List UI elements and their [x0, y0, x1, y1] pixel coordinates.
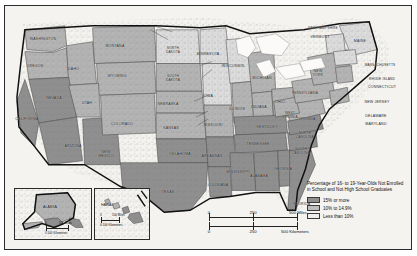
legend-title: Percentage of 16- to 19-Year-Olds Not En… [307, 181, 405, 194]
scale-km-mid: 250 [250, 229, 257, 234]
inset-hawaii-label: HAWAII [101, 203, 114, 207]
scale-bar: 0 250 500 Miles 0 250 500 Kilometers [201, 211, 319, 237]
alaska-scale-km: 0 500 Kilometers [45, 231, 68, 235]
hawaii-scale-km: 0 100 Kilometers [100, 223, 123, 227]
scale-km-max: 500 Kilometers [281, 229, 309, 234]
legend-swatch-0 [307, 197, 320, 203]
map-legend: Percentage of 16- to 19-Year-Olds Not En… [307, 181, 405, 221]
legend-label-0: 15% or more [323, 198, 349, 203]
scale-miles-tick-0 [209, 213, 210, 221]
legend-row-0: 15% or more [307, 197, 405, 203]
legend-label-1: 10% to 14.9% [323, 206, 352, 211]
inset-hawaii: HAWAII 0 100 Miles 0 100 Kilometers [94, 188, 150, 240]
legend-row-2: Less than 10% [307, 213, 405, 219]
legend-class-list: 15% or more10% to 14.9%Less than 10% [307, 197, 405, 219]
legend-row-1: 10% to 14.9% [307, 205, 405, 211]
legend-label-2: Less than 10% [323, 214, 353, 219]
inset-alaska: ALASKA 0 500 Miles 0 500 Kilometers [14, 188, 92, 240]
us-choropleth-map: WASHINGTONOREGONIDAHOMONTANAWYOMINGNEVAD… [0, 0, 417, 256]
scale-km-zero: 0 [208, 229, 210, 234]
alaska-scale-miles-max: 500 Miles [59, 221, 72, 225]
scale-miles-tick-1 [253, 213, 254, 221]
alaska-scale-line [46, 228, 68, 229]
inset-alaska-label: ALASKA [43, 205, 57, 209]
scale-bar-kilometers: 0 250 500 Kilometers [201, 224, 319, 237]
map-frame: WASHINGTONOREGONIDAHOMONTANAWYOMINGNEVAD… [4, 5, 412, 250]
scale-bar-miles: 0 250 500 Miles [201, 211, 319, 224]
alaska-scale-tick-1 [68, 225, 69, 231]
hawaii-scale-line [101, 220, 119, 221]
scale-miles-tick-2 [297, 213, 298, 221]
